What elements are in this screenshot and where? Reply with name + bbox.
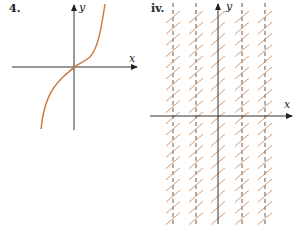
slope-segment: [258, 89, 272, 101]
slope-segment: [166, 89, 180, 101]
slope-segment: [166, 201, 180, 213]
diagram-canvas: [0, 0, 296, 226]
slope-segment: [166, 145, 180, 157]
slope-segment: [235, 145, 249, 157]
slope-segment: [166, 33, 180, 45]
slope-segment: [235, 89, 249, 101]
panel-iv-graph: [150, 3, 292, 225]
slope-segment: [189, 201, 203, 213]
slope-segment: [258, 145, 272, 157]
slope-segment: [235, 33, 249, 45]
slope-segment: [235, 201, 249, 213]
slope-segment: [189, 145, 203, 157]
slope-segment: [258, 33, 272, 45]
slope-segment: [189, 89, 203, 101]
slope-segment: [258, 201, 272, 213]
panel-4-graph: [12, 4, 137, 130]
slope-segment: [189, 33, 203, 45]
